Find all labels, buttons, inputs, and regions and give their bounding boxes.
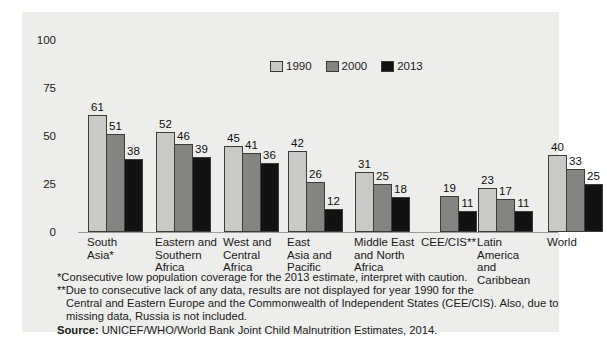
bar-value-label: 12 [320,196,347,207]
x-category-label: West andCentralAfrica [223,236,271,274]
bar-2013 [514,211,533,232]
bar-value-label: 25 [580,171,607,182]
bar-value-label: 23 [474,175,501,186]
bar-2013 [584,184,603,232]
y-tick-75: 75 [22,83,56,94]
source-line: Source: UNICEF/WHO/World Bank Joint Chil… [57,324,552,337]
y-tick-50: 50 [22,131,56,142]
chart-figure: 100 75 50 25 0 1990 2000 2013 6151385246… [22,12,559,332]
x-category-label-line: East [287,236,332,249]
bar-2000 [242,153,261,232]
bar-2013 [124,159,143,232]
footnote-1: *Consecutive low population coverage for… [57,271,552,284]
x-category-label-line: Asia* [87,249,117,262]
x-category-label-line: Latin [477,236,530,249]
x-category-label: Middle Eastand NorthAfrica [354,236,414,274]
bar-2013 [391,197,410,232]
footnote-2-line-3: missing data, Russia is not included. [57,310,552,323]
x-category-label: CEE/CIS** [421,236,476,249]
y-tick-0: 0 [22,227,56,238]
bar-2013 [192,157,211,232]
bar-value-label: 40 [544,142,571,153]
x-category-label: SouthAsia* [87,236,117,261]
source-text: UNICEF/WHO/World Bank Joint Child Malnut… [99,324,438,336]
x-category-label-line: Asia and [287,249,332,262]
bar-1990 [548,155,567,232]
bar-value-label: 19 [436,183,463,194]
x-axis-line [78,232,558,233]
footnote-2-line-1: **Due to consecutive lack of any data, r… [57,284,552,297]
bar-value-label: 25 [369,171,396,182]
bar-value-label: 46 [170,131,197,142]
bar-2013 [260,163,279,232]
x-category-label: Eastern andSouthernAfrica [155,236,217,274]
y-tick-25: 25 [22,179,56,190]
source-label: Source: [57,324,99,336]
y-tick-100: 100 [22,35,56,46]
bar-value-label: 52 [152,119,179,130]
bar-2013 [324,209,343,232]
bar-value-label: 26 [302,169,329,180]
bar-value-label: 61 [84,102,111,113]
bar-value-label: 31 [351,159,378,170]
bar-1990 [156,132,175,232]
bar-2000 [174,144,193,232]
x-category-label-line: South [87,236,117,249]
x-category-label-line: Middle East [354,236,414,249]
x-category-label-line: America [477,249,530,262]
x-category-label-line: World [547,236,577,249]
bar-value-label: 38 [120,146,147,157]
bar-value-label: 51 [102,121,129,132]
bar-value-label: 11 [510,198,537,209]
bar-value-label: 42 [284,138,311,149]
x-category-label-line: West and [223,236,271,249]
x-category-label: EastAsia andPacific [287,236,332,274]
bar-value-label: 39 [188,144,215,155]
footnotes: *Consecutive low population coverage for… [57,271,552,337]
bar-value-label: 11 [454,198,481,209]
bar-value-label: 18 [387,184,414,195]
bar-value-label: 17 [492,186,519,197]
footnote-2-line-2: Central and Eastern Europe and the Commo… [57,297,552,310]
x-category-label-line: Southern [155,249,217,262]
bar-value-label: 33 [562,156,589,167]
x-category-label-line: CEE/CIS** [421,236,476,249]
bar-1990 [224,146,243,232]
x-category-label: World [547,236,577,249]
x-category-label-line: and North [354,249,414,262]
bar-1990 [288,151,307,232]
plot-area: 6151385246394541364226123125181911231711… [78,40,558,232]
bar-2000 [306,182,325,232]
x-category-label-line: Eastern and [155,236,217,249]
bar-value-label: 36 [256,150,283,161]
bar-1990 [88,115,107,232]
x-category-label-line: Central [223,249,271,262]
bar-2013 [458,211,477,232]
